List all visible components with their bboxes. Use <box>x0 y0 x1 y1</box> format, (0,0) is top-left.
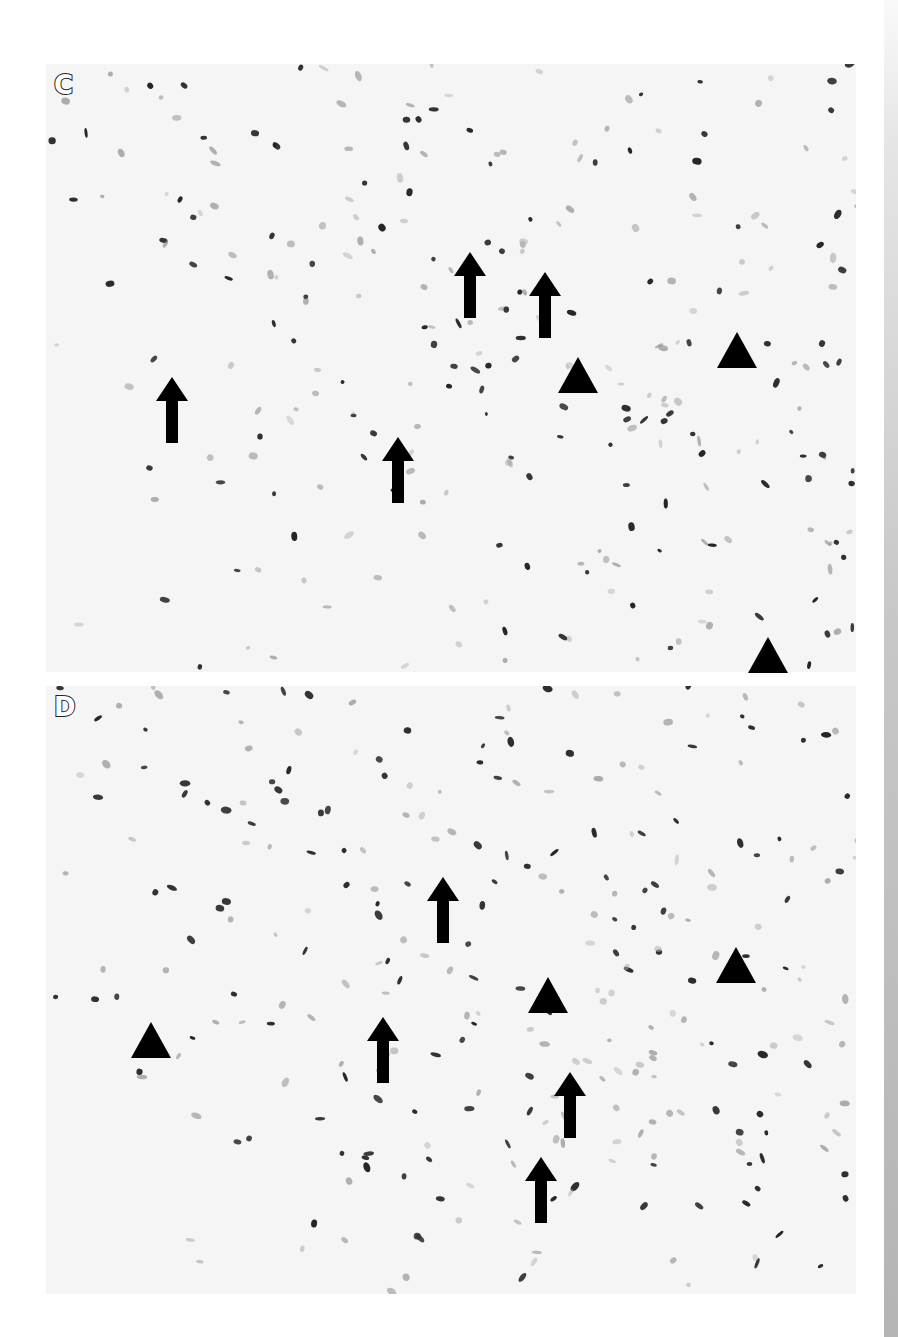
nuclei <box>48 64 856 672</box>
arrowhead-marker-icon <box>748 637 788 673</box>
panel-d-micrograph: D <box>46 686 856 1294</box>
arrowhead-marker-icon <box>558 357 598 393</box>
arrowhead-marker-icon <box>131 1022 171 1058</box>
arrow-marker-icon <box>554 1072 586 1138</box>
panel-label-c: C <box>54 72 73 98</box>
page-edge-shading <box>884 0 898 1337</box>
tissue-texture <box>46 686 856 1294</box>
arrow-marker-icon <box>529 272 561 338</box>
nuclei <box>53 686 856 1294</box>
arrow-marker-icon <box>525 1157 557 1223</box>
arrow-marker-icon <box>454 252 486 318</box>
arrow-marker-icon <box>382 437 414 503</box>
arrow-marker-icon <box>427 877 459 943</box>
arrowhead-marker-icon <box>717 332 757 368</box>
panel-c-micrograph: C <box>46 64 856 672</box>
panel-label-d: D <box>54 694 76 720</box>
arrowhead-marker-icon <box>716 947 756 983</box>
arrowhead-marker-icon <box>528 977 568 1013</box>
tissue-texture <box>46 64 856 672</box>
arrow-marker-icon <box>367 1017 399 1083</box>
arrow-marker-icon <box>156 377 188 443</box>
